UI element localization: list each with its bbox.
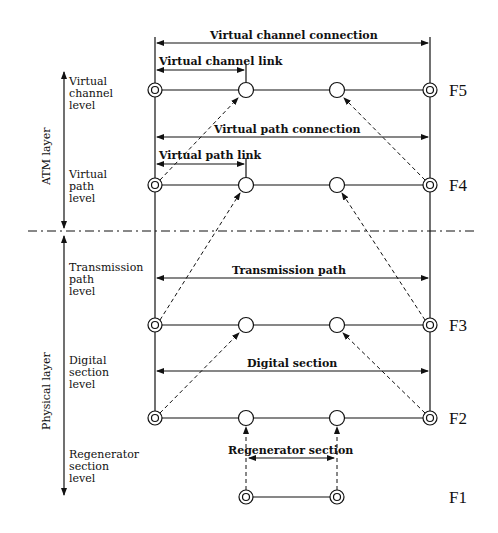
vc-link-label: Virtual channel link [158, 55, 283, 68]
flow-label-f5: F5 [449, 81, 467, 100]
flow-label-f1: F1 [449, 488, 467, 507]
flow-label-f3: F3 [449, 316, 467, 335]
f2-intermediate-node [239, 411, 254, 426]
flow-label-f4: F4 [449, 176, 467, 195]
vc-level-line3: level [69, 99, 96, 112]
vp-link-label: Virtual path link [158, 149, 262, 162]
layer-axis: ATM layer Physical layer [40, 72, 64, 495]
f3-intermediate-node [330, 318, 345, 333]
physical-layer-label: Physical layer [40, 352, 53, 430]
vp-level-line3: level [69, 192, 96, 205]
f5-intermediate-node [330, 83, 345, 98]
tp-level-line3: level [69, 285, 96, 298]
f3-to-f4-left-arrow [160, 193, 240, 320]
spans: Virtual channel connection Virtual chann… [157, 29, 428, 458]
f4-to-f5-right-arrow [344, 98, 425, 180]
f2-to-f3-left-arrow [160, 333, 239, 413]
f4-intermediate-node [239, 178, 254, 193]
vp-connection-label: Virtual path connection [213, 123, 361, 136]
atm-layer-label: ATM layer [40, 127, 53, 186]
regenerator-section-label: Regenerator section [228, 444, 353, 457]
level-labels: Virtual channel level Virtual path level… [68, 75, 143, 485]
f2-to-f3-right-arrow [343, 333, 425, 413]
flow-label-f2: F2 [449, 409, 467, 428]
nodes [148, 83, 437, 505]
f4-intermediate-node [330, 178, 345, 193]
vc-connection-label: Virtual channel connection [209, 29, 378, 42]
oam-flow-diagram: ATM layer Physical layer Virtual channel… [0, 0, 498, 533]
f5-intermediate-node [239, 83, 254, 98]
f3-to-f4-right-arrow [342, 193, 425, 320]
ds-level-line3: level [69, 378, 96, 391]
transmission-path-label: Transmission path [232, 264, 346, 277]
f3-intermediate-node [239, 318, 254, 333]
digital-section-label: Digital section [247, 357, 337, 370]
rs-level-line3: level [69, 472, 96, 485]
f2-intermediate-node [330, 411, 345, 426]
flow-labels: F5 F4 F3 F2 F1 [449, 81, 467, 507]
f4-to-f5-left-arrow [160, 98, 238, 180]
